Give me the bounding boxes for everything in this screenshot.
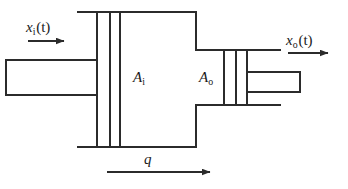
label-xi-argument: (t) (36, 19, 50, 35)
hydraulic-cylinder-schematic (0, 0, 348, 189)
label-xo-argument: (t) (298, 32, 312, 48)
label-xi-symbol: x (26, 19, 33, 35)
label-input-area: Ai (133, 70, 146, 87)
label-ao-symbol: A (199, 69, 208, 85)
label-ao-subscript: o (208, 76, 214, 87)
label-output-area: Ao (199, 70, 214, 87)
output-piston-group (224, 50, 247, 105)
label-xo-symbol: x (286, 32, 293, 48)
label-ai-symbol: A (133, 69, 142, 85)
output-rod-group (247, 72, 300, 92)
input-rod-group (6, 60, 97, 95)
label-output-displacement: xo(t) (286, 33, 313, 50)
diagram-canvas: xi(t) xo(t) Ai Ao q (0, 0, 348, 189)
input-piston-group (97, 12, 120, 147)
label-ai-subscript: i (142, 76, 146, 87)
label-flow-rate: q (144, 152, 152, 167)
label-q-symbol: q (144, 151, 152, 167)
label-input-displacement: xi(t) (26, 20, 50, 37)
